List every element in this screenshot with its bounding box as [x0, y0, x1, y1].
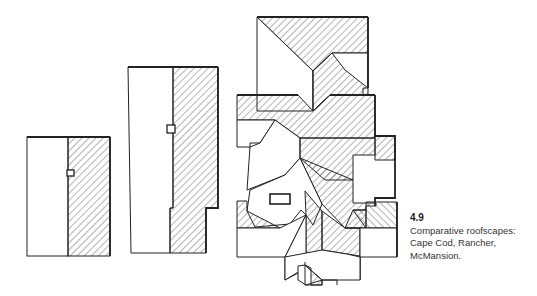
mcm-chimney [270, 194, 290, 204]
mcm-front-porch [285, 250, 360, 280]
mcmansion-roof [237, 17, 397, 285]
caption-line: Cape Cod, Rancher, [410, 237, 516, 250]
rancher-chimney [167, 125, 175, 133]
figure-caption: 4.9 Comparative roofscapes: Cape Cod, Ra… [410, 212, 516, 262]
rancher-roof [128, 67, 218, 253]
mcm-bay-plane [375, 136, 395, 160]
cape-cod-front-plane [27, 137, 68, 256]
cape-cod-chimney [67, 170, 74, 176]
caption-line: Comparative roofscapes: [410, 225, 516, 238]
mcm-right-lower-plane [360, 228, 397, 257]
rancher-rear-plane [170, 67, 218, 253]
cape-cod-rear-plane [68, 137, 110, 256]
figure-number: 4.9 [410, 212, 516, 225]
cape-cod-roof [27, 137, 110, 256]
caption-line: McMansion. [410, 250, 516, 263]
rancher-front-plane [128, 67, 173, 253]
